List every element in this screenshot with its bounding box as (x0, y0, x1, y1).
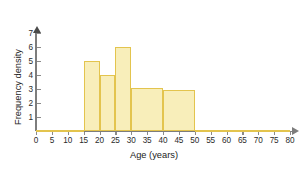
x-tick-mark (36, 132, 37, 136)
x-tick-mark (52, 132, 53, 136)
x-tick-label: 45 (174, 136, 183, 145)
x-tick-mark (163, 132, 164, 136)
x-tick-mark (274, 132, 275, 136)
x-tick-mark (100, 132, 101, 136)
histogram-bar (163, 90, 195, 131)
x-tick-mark (258, 132, 259, 136)
x-tick-label: 70 (254, 136, 263, 145)
x-tick-label: 75 (270, 136, 279, 145)
x-tick-mark (147, 132, 148, 136)
x-tick-mark (195, 132, 196, 136)
x-tick-mark (131, 132, 132, 136)
x-tick-label: 80 (286, 136, 295, 145)
y-tick-label: 2 (22, 99, 33, 108)
histogram-figure: 05101520253035404550556065707580 1234567… (0, 0, 308, 171)
y-tick-mark (37, 47, 41, 48)
x-tick-label: 30 (127, 136, 136, 145)
x-axis-arrow-icon (292, 127, 299, 135)
y-tick-label: 7 (22, 29, 33, 38)
x-tick-label: 25 (111, 136, 120, 145)
x-tick-mark (115, 132, 116, 136)
x-tick-label: 5 (50, 136, 54, 145)
y-tick-mark (37, 75, 41, 76)
histogram-bar (100, 75, 116, 131)
y-tick-label: 1 (22, 113, 33, 122)
x-tick-label: 15 (79, 136, 88, 145)
histogram-bar (131, 88, 163, 131)
y-axis-label: Frequency density (13, 49, 23, 125)
x-tick-label: 65 (238, 136, 247, 145)
histogram-bar (115, 47, 131, 131)
x-tick-mark (68, 132, 69, 136)
x-tick-mark (290, 132, 291, 136)
y-tick-mark (37, 103, 41, 104)
y-tick-label: 5 (22, 57, 33, 66)
x-tick-label: 35 (143, 136, 152, 145)
x-tick-label: 20 (95, 136, 104, 145)
x-axis-label: Age (years) (0, 150, 308, 160)
y-tick-label: 6 (22, 43, 33, 52)
plot-area: 05101520253035404550556065707580 1234567… (0, 0, 308, 171)
y-tick-mark (37, 117, 41, 118)
x-tick-mark (242, 132, 243, 136)
x-tick-label: 50 (190, 136, 199, 145)
y-axis-arrow-icon (33, 26, 41, 33)
y-tick-label: 4 (22, 71, 33, 80)
x-tick-label: 60 (222, 136, 231, 145)
x-tick-label: 10 (63, 136, 72, 145)
x-tick-mark (84, 132, 85, 136)
x-tick-label: 55 (206, 136, 215, 145)
x-tick-mark (179, 132, 180, 136)
histogram-bar (36, 130, 84, 132)
x-tick-mark (211, 132, 212, 136)
y-tick-mark (37, 89, 41, 90)
x-tick-mark (227, 132, 228, 136)
x-tick-label: 40 (159, 136, 168, 145)
x-tick-label: 0 (34, 136, 38, 145)
histogram-bar (84, 61, 100, 131)
y-tick-label: 3 (22, 85, 33, 94)
y-tick-mark (37, 61, 41, 62)
y-tick-mark (37, 33, 41, 34)
